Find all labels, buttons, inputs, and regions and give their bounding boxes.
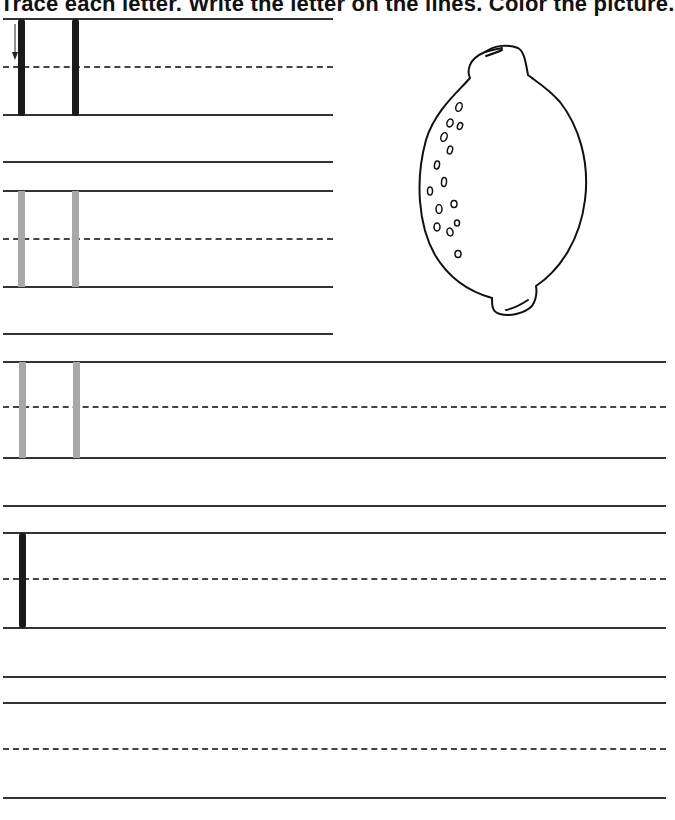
- top-line: [3, 18, 333, 20]
- top-line: [3, 361, 666, 363]
- trace-letter-l: [72, 19, 79, 116]
- trace-letter-l: [72, 191, 79, 287]
- trace-letter-l: [19, 362, 26, 458]
- base-line: [3, 114, 333, 116]
- model-letter-l: [19, 533, 26, 628]
- base-line: [3, 457, 666, 459]
- dashed-midline: [3, 66, 333, 68]
- top-line: [3, 190, 333, 192]
- base-line: [3, 797, 666, 799]
- descender-line: [3, 505, 666, 507]
- descender-line: [3, 676, 666, 678]
- dashed-midline: [3, 578, 666, 580]
- top-line: [3, 702, 666, 704]
- top-line: [3, 532, 666, 534]
- dashed-midline: [3, 238, 333, 240]
- descender-line: [3, 333, 333, 335]
- base-line: [3, 286, 333, 288]
- dashed-midline: [3, 406, 666, 408]
- trace-letter-l: [18, 191, 25, 287]
- descender-line: [3, 161, 333, 163]
- trace-letter-l: [18, 19, 25, 116]
- lemon-picture: [400, 30, 610, 320]
- dashed-midline: [3, 748, 666, 750]
- base-line: [3, 627, 666, 629]
- trace-letter-l: [73, 362, 80, 458]
- worksheet-instructions: Trace each letter. Write the letter on t…: [0, 0, 669, 17]
